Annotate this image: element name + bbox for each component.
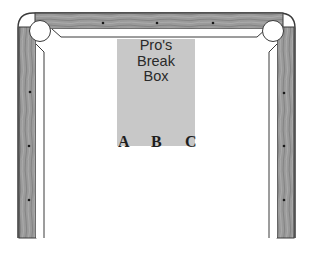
diamond-marker xyxy=(283,92,286,95)
position-c-label: C xyxy=(185,133,197,151)
break-box-label: Pro's Break Box xyxy=(117,38,195,85)
position-b-label: B xyxy=(151,133,162,151)
diamond-marker xyxy=(283,145,286,148)
left-rail xyxy=(19,27,36,238)
label-line: Pro's xyxy=(117,38,195,54)
diamond-marker xyxy=(28,199,31,202)
top-right-pocket xyxy=(263,21,284,42)
diamond-marker xyxy=(283,199,286,202)
right-rail xyxy=(277,27,294,238)
diamond-marker xyxy=(156,22,159,25)
diamond-marker xyxy=(102,22,105,25)
top-cushion xyxy=(52,29,266,37)
top-left-pocket xyxy=(30,21,51,42)
position-a-label: A xyxy=(118,133,130,151)
diamond-marker xyxy=(212,22,215,25)
diamond-marker xyxy=(29,91,32,94)
diamond-marker xyxy=(28,145,31,148)
label-line: Box xyxy=(117,69,195,85)
top-rail xyxy=(35,13,283,29)
label-line: Break xyxy=(117,54,195,70)
